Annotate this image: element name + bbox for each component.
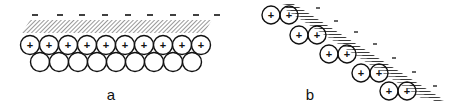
positive-charge-icon: +	[344, 48, 350, 60]
positive-charge-icon: +	[65, 39, 71, 51]
neutral-sphere	[164, 53, 183, 72]
positive-charge-icon: +	[286, 9, 292, 21]
positive-charge-icon: +	[358, 67, 364, 79]
positive-charge-icon: +	[179, 39, 185, 51]
positive-charge-icon: +	[314, 29, 320, 41]
neutral-sphere	[126, 53, 145, 72]
neutral-sphere	[50, 53, 69, 72]
positive-charge-icon: +	[84, 39, 90, 51]
positive-charge-icon: +	[122, 39, 128, 51]
positive-charge-icon: +	[376, 67, 382, 79]
neutral-sphere	[145, 53, 164, 72]
neutral-sphere	[183, 53, 202, 72]
panel-label-a: a	[107, 86, 116, 103]
diagram-canvas: + + + + + + + + + + a	[0, 0, 457, 111]
positive-charge-icon: +	[160, 39, 166, 51]
neutral-sphere	[31, 53, 50, 72]
positive-sphere-row: + + + + + + + + + +	[21, 36, 211, 55]
positive-charge-icon: +	[296, 29, 302, 41]
positive-charge-icon: +	[404, 85, 410, 97]
panel-b: + + + + + + + + + + b	[262, 3, 444, 103]
positive-charge-icon: +	[386, 85, 392, 97]
positive-charge-icon: +	[268, 9, 274, 21]
positive-charge-icon: +	[198, 39, 204, 51]
neutral-sphere	[107, 53, 126, 72]
positive-charge-icon: +	[141, 39, 147, 51]
positive-charge-icon: +	[326, 48, 332, 60]
panel-label-b: b	[306, 86, 314, 103]
positive-charge-icon: +	[46, 39, 52, 51]
panel-a: + + + + + + + + + + a	[21, 15, 221, 103]
positive-sphere-pairs: + + + + + + + + + +	[262, 6, 416, 100]
hatched-layer	[22, 20, 212, 33]
positive-charge-icon: +	[103, 39, 109, 51]
positive-charge-icon: +	[27, 39, 33, 51]
neutral-sphere	[88, 53, 107, 72]
neutral-sphere-row	[31, 53, 202, 72]
neutral-sphere	[69, 53, 88, 72]
